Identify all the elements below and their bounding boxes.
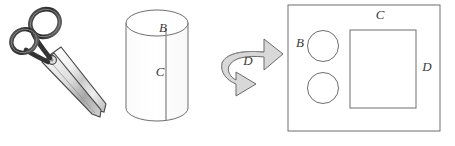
cylinder-shape: B C [126, 10, 188, 121]
cylinder-top-face [126, 10, 188, 36]
cylinder-label-b: B [159, 20, 167, 35]
arrow-label-d: D [242, 53, 253, 68]
cylinder-label-c: C [156, 64, 165, 79]
panel-label-c: C [376, 7, 385, 22]
ring-upper-outer [25, 4, 64, 42]
panel-label-d: D [421, 59, 432, 74]
ring-lower-outer [7, 25, 41, 58]
scissors-ring-upper [25, 4, 64, 42]
rotation-arrow: D [222, 39, 283, 96]
scissors-illustration [7, 4, 106, 117]
panel-circle-bottom [308, 73, 339, 104]
result-panel: B C D [288, 5, 440, 131]
diagram-canvas: B C D B C D [0, 0, 455, 146]
panel-circle-top [308, 31, 339, 62]
scissors-ring-lower [7, 25, 41, 58]
panel-inner-rectangle [350, 30, 416, 108]
panel-label-b: B [296, 35, 304, 50]
